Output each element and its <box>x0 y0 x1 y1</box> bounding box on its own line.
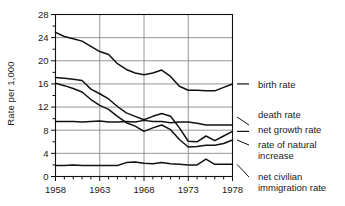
legend-label: rate of natural <box>258 139 317 150</box>
x-tick-label: 1968 <box>133 184 154 195</box>
y-tick-label: 0 <box>43 171 48 182</box>
legend-leader-line <box>237 164 249 177</box>
legend-label: death rate <box>258 109 301 120</box>
y-tick-label: 4 <box>43 148 48 159</box>
legend-entry: birth rate <box>237 79 296 90</box>
legend: birth ratedeath ratenet growth raterate … <box>237 79 326 193</box>
line-chart-svg: 0481216202428 19581963196819731978 birth… <box>0 0 345 206</box>
legend-label: immigration rate <box>258 182 326 193</box>
legend-entry: rate of naturalincrease <box>237 139 317 161</box>
legend-leader-line <box>237 140 249 145</box>
y-tick-label: 8 <box>43 125 48 136</box>
y-tick-label: 16 <box>38 78 49 89</box>
x-tick-label: 1963 <box>89 184 110 195</box>
legend-entry: net growth rate <box>237 124 321 135</box>
y-tick-label: 24 <box>38 32 49 43</box>
grid-layer <box>56 15 233 177</box>
legend-label: birth rate <box>258 79 296 90</box>
legend-entry: net civilianimmigration rate <box>237 164 326 193</box>
x-tick-label: 1978 <box>222 184 243 195</box>
y-tick-label: 20 <box>38 55 49 66</box>
x-tick-label: 1973 <box>178 184 199 195</box>
x-tick-label: 1958 <box>45 184 66 195</box>
y-tick-label: 28 <box>38 9 49 20</box>
legend-label: increase <box>258 150 294 161</box>
legend-label: net growth rate <box>258 124 321 135</box>
y-tick-label: 12 <box>38 101 49 112</box>
legend-leader-line <box>237 117 249 125</box>
legend-label: net civilian <box>258 171 302 182</box>
x-axis-tick-labels: 19581963196819731978 <box>45 184 243 195</box>
legend-entry: death rate <box>237 109 301 125</box>
chart-figure: Rate per 1,000 0481216202428 19581963196… <box>0 0 345 206</box>
y-axis-tick-labels: 0481216202428 <box>38 9 49 182</box>
